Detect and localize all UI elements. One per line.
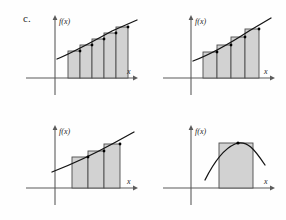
rectangle-group-f — [219, 143, 253, 188]
x-axis-label-e: x — [126, 177, 131, 186]
rectangle — [245, 29, 259, 78]
panel-f: f(x) x f. — [143, 110, 286, 220]
touch-point — [87, 156, 90, 159]
x-axis-label-f: x — [263, 177, 268, 186]
y-axis-label-f: f(x) — [195, 127, 206, 136]
rectangle — [104, 144, 120, 188]
rectangle — [217, 45, 231, 78]
x-axis-label-d: x — [263, 67, 268, 76]
touch-point — [79, 50, 82, 53]
x-axis-arrowhead-c — [133, 76, 138, 81]
y-axis-arrowhead-e — [53, 125, 58, 130]
touch-point — [244, 36, 247, 39]
x-axis-arrowhead-f — [270, 186, 275, 191]
riemann-sum-figure: f(x) x c. f(x) x — [0, 0, 286, 220]
touch-point — [115, 32, 118, 35]
panel-label-c: c. — [23, 13, 31, 24]
touch-point — [127, 26, 130, 29]
rectangle — [80, 45, 92, 78]
touch-point — [216, 51, 219, 54]
y-axis-label-d: f(x) — [195, 17, 206, 26]
x-axis-arrowhead-d — [270, 76, 275, 81]
touch-point-group-f — [236, 141, 239, 144]
rectangle — [219, 143, 253, 188]
x-axis-label-c: x — [126, 67, 131, 76]
y-axis-label-c: f(x) — [59, 17, 70, 26]
rectangle-group-e — [72, 144, 120, 188]
y-axis-arrowhead-c — [53, 15, 58, 20]
x-axis-arrowhead-e — [133, 186, 138, 191]
rectangle — [104, 33, 116, 78]
y-axis-label-e: f(x) — [59, 127, 70, 136]
touch-point — [103, 150, 106, 153]
rectangle — [72, 157, 88, 188]
touch-point — [258, 28, 261, 31]
touch-point — [91, 44, 94, 47]
rectangle — [68, 51, 80, 78]
rectangle — [88, 151, 104, 188]
panel-d: f(x) x d. — [143, 0, 286, 110]
rectangle — [231, 37, 245, 78]
y-axis-arrowhead-f — [189, 125, 194, 130]
rectangle-group-c — [68, 27, 128, 78]
panel-c: f(x) x c. — [0, 0, 143, 110]
touch-point — [103, 38, 106, 41]
touch-point — [236, 141, 239, 144]
panel-e: f(x) x e. — [0, 110, 143, 220]
rectangle — [92, 39, 104, 78]
touch-point — [119, 143, 122, 146]
y-axis-arrowhead-d — [189, 15, 194, 20]
touch-point — [230, 44, 233, 47]
